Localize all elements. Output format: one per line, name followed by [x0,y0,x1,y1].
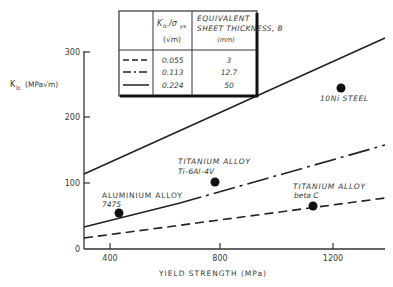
y-ticks [84,52,90,183]
y-tick-200: 200 [65,113,80,122]
label-ti64-grade: Ti–6Al–4V [178,167,215,176]
x-ticks [110,243,333,249]
legend-ratio-2: 0.113 [162,68,184,77]
x-tick-800: 800 [212,254,227,263]
label-10ni: 10Ni STEEL [320,94,369,103]
y-axis-label: K Ic (MPa√m) [10,80,58,91]
x-tick-400: 400 [102,254,117,263]
label-ti-beta-grade: beta C [294,191,319,200]
svg-text:EQUIVALENT: EQUIVALENT [197,14,251,23]
point-10ni-steel [337,84,346,93]
y-tick-100: 100 [65,179,80,188]
chart: 300 200 100 0 400 800 1200 YIELD STRENGT… [0,0,393,287]
x-tick-1200: 1200 [323,254,343,263]
svg-text:/σ: /σ [168,19,178,28]
point-aluminium-7475 [115,209,124,218]
line-0055-dashed [84,198,385,238]
svg-text:(mm): (mm) [217,36,235,44]
legend-thickness-1: 3 [227,56,232,65]
legend-thickness-3: 50 [224,81,234,90]
label-ti64: TITANIUM ALLOY [178,157,252,166]
legend-ratio-1: 0.055 [162,56,184,65]
svg-text:ys: ys [179,23,186,30]
label-ti-beta: TITANIUM ALLOY [293,182,367,191]
y-tick-0: 0 [75,245,80,254]
point-ti-beta-c [309,202,318,211]
point-ti-6al-4v [211,178,220,187]
svg-text:SHEET THICKNESS, B: SHEET THICKNESS, B [197,24,283,33]
legend-ratio-3: 0.224 [162,81,184,90]
legend-table: K Ic /σ ys (√m) EQUIVALENT SHEET THICKNE… [119,11,283,97]
legend-thickness-2: 12.7 [221,68,238,77]
line-0113-solid-part [84,203,180,227]
svg-text:(MPa√m): (MPa√m) [25,80,58,89]
label-aluminium-grade: 7475 [102,200,121,209]
svg-text:(√m): (√m) [163,35,181,44]
y-tick-300: 300 [65,48,80,57]
svg-text:Ic: Ic [163,23,168,29]
label-aluminium: ALUMINIUM ALLOY [102,191,183,200]
x-axis-label: YIELD STRENGTH (MPa) [158,269,267,278]
svg-text:Ic: Ic [16,84,21,91]
